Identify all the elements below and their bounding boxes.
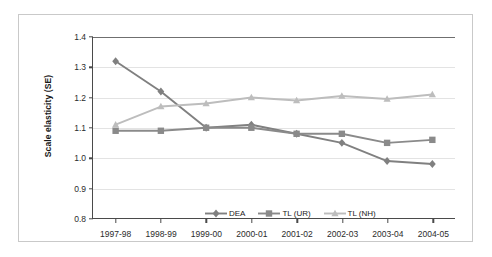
x-tick-label: 2001-02 [282, 229, 313, 239]
series-line [116, 61, 433, 164]
x-tick-label: 2003-04 [372, 229, 403, 239]
y-tick-label: 1.0 [74, 153, 93, 163]
y-tick-label: 1.2 [74, 93, 93, 103]
x-tick-label: 2004-05 [418, 229, 449, 239]
x-tick-label: 2000-01 [236, 229, 267, 239]
x-tick-mark [296, 218, 297, 223]
legend-label: TL (UR) [282, 210, 310, 218]
series-layer [93, 37, 455, 218]
data-point-marker [213, 210, 220, 218]
x-tick-label: 1999-00 [191, 229, 222, 239]
x-tick-label: 1998-99 [145, 229, 176, 239]
series-tl-nh [112, 91, 436, 128]
data-point-marker [248, 125, 254, 131]
x-tick-label: 2002-03 [327, 229, 358, 239]
x-tick-mark [251, 218, 252, 223]
data-point-marker [429, 160, 436, 168]
y-tick-label: 0.9 [74, 184, 93, 194]
plot-area: 0.80.91.01.11.21.31.41997-981998-991999-… [92, 37, 455, 219]
data-point-marker [293, 131, 299, 137]
data-point-marker [112, 57, 119, 65]
data-point-marker [203, 125, 209, 131]
y-tick-label: 1.1 [74, 123, 93, 133]
data-point-marker [384, 157, 391, 165]
data-point-marker [338, 139, 345, 147]
figure-frame: Scale elasticity (SE) 0.80.91.01.11.21.3… [18, 14, 473, 242]
x-tick-mark [160, 218, 161, 223]
y-tick-label: 1.4 [74, 32, 93, 42]
x-tick-mark [115, 218, 116, 223]
chart-figure: Scale elasticity (SE) 0.80.91.01.11.21.3… [0, 0, 492, 257]
x-tick-mark [342, 218, 343, 223]
x-tick-label: 1997-98 [100, 229, 131, 239]
x-tick-mark [206, 218, 207, 223]
series-dea [112, 57, 436, 168]
y-axis-title: Scale elasticity (SE) [43, 41, 53, 191]
data-point-marker [384, 140, 390, 146]
legend-swatch-triangle [324, 209, 346, 218]
legend-item: DEA [205, 209, 245, 218]
legend-item: TL (UR) [258, 209, 310, 218]
data-point-marker [266, 210, 272, 216]
legend-swatch-diamond [205, 209, 227, 218]
data-point-marker [112, 128, 118, 134]
legend-swatch-square [258, 209, 280, 218]
x-tick-mark [387, 218, 388, 223]
data-point-marker [158, 128, 164, 134]
data-point-marker [339, 131, 345, 137]
data-point-marker [429, 137, 435, 143]
y-tick-label: 0.8 [74, 214, 93, 224]
y-tick-label: 1.3 [74, 62, 93, 72]
x-tick-mark [433, 218, 434, 223]
legend-label: DEA [229, 210, 245, 218]
legend-label: TL (NH) [348, 210, 376, 218]
series-line [116, 94, 433, 124]
legend-item: TL (NH) [324, 209, 376, 218]
series-tl-ur [112, 125, 435, 147]
chart-legend: DEATL (UR)TL (NH) [205, 209, 376, 218]
